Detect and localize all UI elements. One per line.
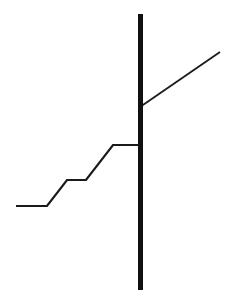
figure-container — [0, 0, 231, 304]
line-diagram-canvas — [0, 0, 231, 304]
figure-background — [0, 0, 231, 304]
